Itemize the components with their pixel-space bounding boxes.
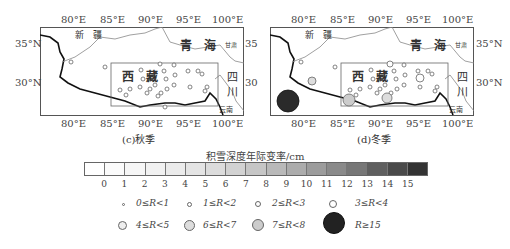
label-sichuan-2-d: 川 xyxy=(457,83,468,99)
colorbar-tick-label: 14 xyxy=(382,179,393,189)
colorbar-cell xyxy=(287,163,307,175)
map-d-lon-tick-90: 90°E xyxy=(368,14,393,25)
map-c-lon-tick-95-bottom: 95°E xyxy=(176,118,201,129)
colorbar-tick-label: 11 xyxy=(321,179,332,189)
colorbar xyxy=(84,162,428,176)
label-sichuan-1: 四 xyxy=(227,68,238,84)
label-gansu: 甘肃 xyxy=(225,40,237,49)
legend-label-2-3: 2≤R<3 xyxy=(272,198,305,208)
colorbar-tick-label: 4 xyxy=(182,179,188,189)
colorbar-tick-label: 8 xyxy=(263,179,269,189)
map-c-lon-tick-100: 100°E xyxy=(212,14,243,25)
legend-label-1-2: 1≤R<2 xyxy=(203,198,236,208)
colorbar-cell xyxy=(105,163,125,175)
legend-label-0-1: 0≤R<1 xyxy=(136,198,169,208)
legend-marker-3-4 xyxy=(329,200,337,208)
colorbar-cell xyxy=(388,163,408,175)
legend-label-3-4: 3≤R<4 xyxy=(355,198,388,208)
colorbar-cell xyxy=(226,163,246,175)
legend-marker-1-2 xyxy=(187,202,192,207)
map-d-lon-tick-85-bottom: 85°E xyxy=(330,118,355,129)
label-yunnan: 云南 xyxy=(219,104,233,114)
colorbar-tick-label: 1 xyxy=(122,179,128,189)
colorbar-cell xyxy=(206,163,226,175)
label-xinjiang-d: 新 疆 xyxy=(305,28,332,41)
map-c-lon-tick-90-bottom: 90°E xyxy=(138,118,163,129)
legend-marker-ge15 xyxy=(323,212,345,234)
map-d-lon-tick-95-bottom: 95°E xyxy=(406,118,431,129)
colorbar-tick-label: 15 xyxy=(402,179,413,189)
colorbar-cell xyxy=(307,163,327,175)
legend-marker-2-3 xyxy=(255,201,261,207)
label-gansu-d: 甘肃 xyxy=(455,40,467,49)
map-c-lon-tick-80-bottom: 80°E xyxy=(61,118,86,129)
map-d-lat-tick-30-right: 30°N xyxy=(476,77,502,88)
colorbar-cell xyxy=(146,163,166,175)
map-d-lon-tick-80: 80°E xyxy=(291,14,316,25)
map-d-lat-tick-35-right: 35°N xyxy=(476,38,502,49)
colorbar-tick-label: 13 xyxy=(362,179,373,189)
map-d-lon-tick-80-bottom: 80°E xyxy=(291,118,316,129)
map-c-lon-tick-90: 90°E xyxy=(138,14,163,25)
colorbar-tick-label: 12 xyxy=(341,179,352,189)
colorbar-tick-label: 3 xyxy=(162,179,168,189)
colorbar-tick-label: 7 xyxy=(243,179,249,189)
map-c-lon-tick-95: 95°E xyxy=(176,14,201,25)
colorbar-cell xyxy=(347,163,367,175)
label-xinjiang: 新 疆 xyxy=(75,28,102,41)
map-d-lon-tick-100: 100°E xyxy=(442,14,473,25)
colorbar-cell xyxy=(186,163,206,175)
caption-winter: (d)冬季 xyxy=(357,131,391,146)
label-yunnan-d: 云南 xyxy=(449,104,463,114)
colorbar-cell xyxy=(166,163,186,175)
label-sichuan-1-d: 四 xyxy=(457,68,468,84)
legend-label-7-8: 7≤R<8 xyxy=(272,220,305,230)
map-c-lat-tick-35-right: 35 xyxy=(245,38,258,49)
colorbar-tick-label: 0 xyxy=(101,179,107,189)
colorbar-title: 积雪深度年际变率/cm xyxy=(206,148,304,163)
colorbar-tick-label: 9 xyxy=(283,179,289,189)
label-qinghai-d: 青 海 xyxy=(410,36,446,53)
map-c-lon-tick-80: 80°E xyxy=(61,14,86,25)
map-c-lat-tick-30: 30°N xyxy=(15,77,41,88)
label-sichuan-2: 川 xyxy=(227,83,238,99)
map-d-lon-tick-90-bottom: 90°E xyxy=(368,118,393,129)
map-d-lon-tick-85: 85°E xyxy=(330,14,355,25)
colorbar-tick-label: 10 xyxy=(301,179,312,189)
legend-marker-6-7 xyxy=(184,220,195,231)
legend-marker-4-5 xyxy=(118,221,127,230)
colorbar-tick-label: 2 xyxy=(142,179,148,189)
map-c-lat-tick-35: 35°N xyxy=(15,38,41,49)
colorbar-cell xyxy=(408,163,427,175)
label-xizang: 西 藏 xyxy=(122,67,158,84)
label-qinghai: 青 海 xyxy=(180,36,216,53)
colorbar-cell xyxy=(267,163,287,175)
map-d-lon-tick-100-bottom: 100°E xyxy=(442,118,473,129)
map-d-lon-tick-95: 95°E xyxy=(406,14,431,25)
map-c-lon-tick-85: 85°E xyxy=(100,14,125,25)
colorbar-cell xyxy=(85,163,105,175)
map-c-lat-tick-30-right: 30 xyxy=(245,77,258,88)
map-c-lon-tick-85-bottom: 85°E xyxy=(100,118,125,129)
legend-marker-7-8 xyxy=(252,219,264,231)
legend-marker-0-1 xyxy=(122,203,125,206)
legend-label-4-5: 4≤R<5 xyxy=(136,220,169,230)
colorbar-tick-label: 6 xyxy=(223,179,229,189)
caption-autumn: (c)秋季 xyxy=(122,131,155,146)
legend-label-ge15: R≥15 xyxy=(355,220,381,230)
legend-label-6-7: 6≤R<7 xyxy=(203,220,236,230)
colorbar-cell xyxy=(246,163,266,175)
label-xizang-d: 西 藏 xyxy=(352,67,388,84)
map-c-lon-tick-100-bottom: 100°E xyxy=(212,118,243,129)
colorbar-tick-label: 5 xyxy=(203,179,209,189)
colorbar-cell xyxy=(367,163,387,175)
colorbar-cell xyxy=(327,163,347,175)
colorbar-cell xyxy=(125,163,145,175)
